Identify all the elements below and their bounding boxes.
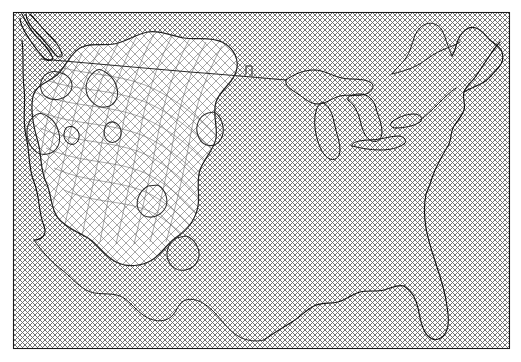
map-canvas — [0, 0, 521, 362]
map-figure — [0, 0, 521, 362]
